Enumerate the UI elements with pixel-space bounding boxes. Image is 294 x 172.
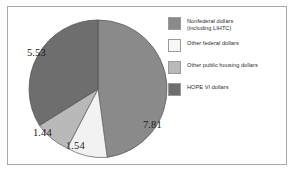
pie-plot-area: 7.81 5.53 1.44 1.54 bbox=[9, 8, 169, 164]
legend-label-other-public-housing: Other public housing dollars bbox=[187, 61, 258, 69]
legend-swatch-other-federal bbox=[168, 39, 181, 52]
legend-item-other-federal[interactable]: Other federal dollars bbox=[168, 39, 284, 56]
pie-value-label-other-public-housing: 1.44 bbox=[33, 127, 52, 138]
legend-item-hope-vi[interactable]: HOPE VI dollars bbox=[168, 83, 284, 100]
legend-swatch-hope-vi bbox=[168, 83, 181, 96]
legend-item-nonfederal[interactable]: Nonfederal dollars(including LIHTC) bbox=[168, 17, 284, 34]
pie-slice-nonfederal[interactable] bbox=[98, 20, 167, 157]
legend-label-other-federal: Other federal dollars bbox=[187, 39, 239, 47]
legend-swatch-other-public-housing bbox=[168, 61, 181, 74]
legend-label-hope-vi: HOPE VI dollars bbox=[187, 83, 228, 91]
pie-chart-figure: 7.81 5.53 1.44 1.54 Nonfederal dollars(i… bbox=[0, 0, 294, 172]
pie-value-label-nonfederal: 7.81 bbox=[143, 119, 162, 130]
pie-value-label-hope-vi: 5.53 bbox=[27, 47, 46, 58]
chart-legend: Nonfederal dollars(including LIHTC) Othe… bbox=[168, 17, 284, 105]
pie-value-label-other-federal: 1.54 bbox=[66, 140, 85, 151]
legend-swatch-nonfederal bbox=[168, 17, 181, 30]
pie-svg bbox=[9, 8, 169, 164]
legend-label-nonfederal: Nonfederal dollars(including LIHTC) bbox=[187, 17, 233, 33]
legend-item-other-public-housing[interactable]: Other public housing dollars bbox=[168, 61, 284, 78]
